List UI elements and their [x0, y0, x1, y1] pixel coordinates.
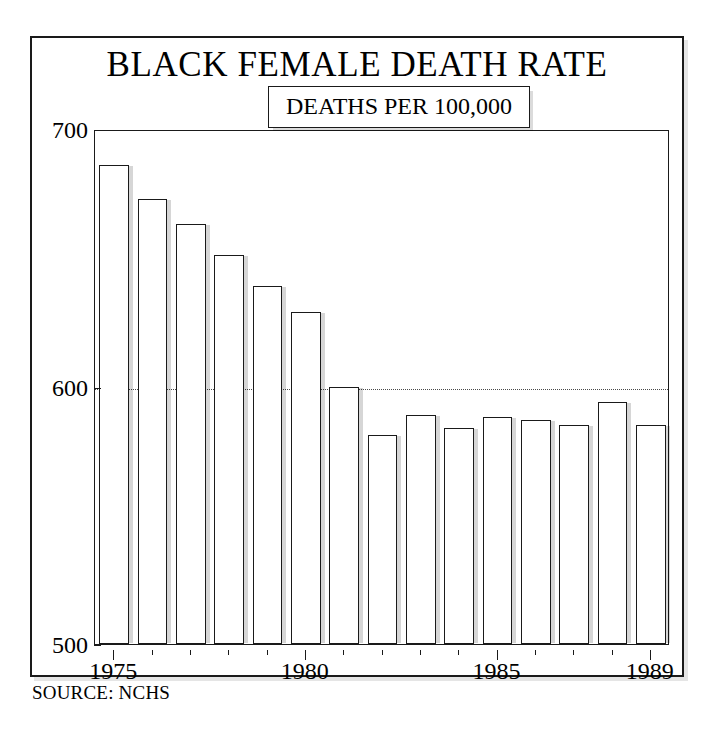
- y-tick-label-600: 600: [52, 376, 88, 400]
- bar-1979: [253, 286, 283, 644]
- bar-1982: [368, 435, 398, 644]
- bar-1984: [444, 428, 474, 644]
- x-tick-label-1975: 1975: [89, 658, 137, 684]
- x-tick-minor-1977: [190, 650, 191, 655]
- x-tick-label-1985: 1985: [473, 658, 521, 684]
- bar-1977: [176, 224, 206, 644]
- x-tick-minor-1988: [612, 650, 613, 655]
- page-title: BLACK FEMALE DEATH RATE: [32, 44, 682, 86]
- bar-1989: [636, 425, 666, 644]
- bar-1988: [598, 402, 628, 644]
- bar-1981: [329, 387, 359, 645]
- x-tick-minor-1981: [343, 650, 344, 655]
- bar-1980: [291, 312, 321, 644]
- bar-1975: [99, 165, 129, 644]
- y-tick-label-500: 500: [52, 633, 88, 657]
- bar-1978: [214, 255, 244, 644]
- x-tick-minor-1976: [152, 650, 153, 655]
- y-axis: 700600500: [32, 130, 88, 645]
- x-tick-minor-1978: [228, 650, 229, 655]
- x-tick-label-1989: 1989: [626, 658, 674, 684]
- plot-area: [94, 130, 669, 645]
- bar-1986: [521, 420, 551, 644]
- bar-1976: [138, 199, 168, 644]
- x-tick-minor-1987: [573, 650, 574, 655]
- x-tick-minor-1986: [535, 650, 536, 655]
- x-tick-minor-1982: [382, 650, 383, 655]
- plot-inner: [95, 131, 668, 644]
- y-tick-label-700: 700: [52, 118, 88, 142]
- bar-1987: [559, 425, 589, 644]
- y-tick-mark-600: [94, 388, 101, 389]
- bar-1985: [483, 417, 513, 644]
- x-tick-label-1980: 1980: [281, 658, 329, 684]
- bar-1983: [406, 415, 436, 644]
- x-tick-minor-1984: [458, 650, 459, 655]
- source-note: SOURCE: NCHS: [32, 682, 170, 704]
- x-tick-minor-1979: [267, 650, 268, 655]
- y-tick-mark-500: [94, 645, 101, 646]
- x-tick-minor-1983: [420, 650, 421, 655]
- chart-figure: BLACK FEMALE DEATH RATE 1975-1989 700600…: [30, 36, 684, 677]
- x-axis: 1975198019851989: [94, 650, 669, 684]
- units-annotation-box: DEATHS PER 100,000: [268, 86, 530, 128]
